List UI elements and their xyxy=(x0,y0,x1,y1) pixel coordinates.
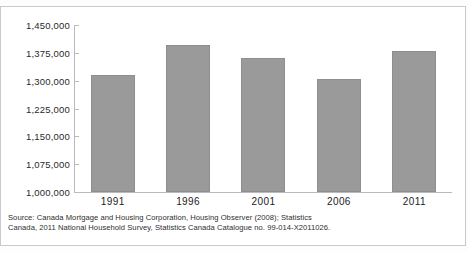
bar-series xyxy=(75,25,452,192)
y-axis-tick-label: 1,000,000 xyxy=(0,187,70,198)
x-axis-tick-label: 2001 xyxy=(226,196,301,207)
bar-slot xyxy=(377,25,452,192)
bar xyxy=(317,79,361,192)
clipped-header-text xyxy=(250,0,450,3)
y-axis-tick-label: 1,075,000 xyxy=(0,159,70,170)
y-axis-tick-mark xyxy=(74,53,79,54)
y-axis-tick-label: 1,225,000 xyxy=(0,103,70,114)
y-axis-tick-label: 1,150,000 xyxy=(0,131,70,142)
x-axis-tick-label: 2006 xyxy=(301,196,376,207)
source-line-2: Canada, 2011 National Household Survey, … xyxy=(8,223,408,233)
x-axis-tick-label: 1996 xyxy=(150,196,225,207)
x-axis-tick-label: 1991 xyxy=(75,196,150,207)
bar-slot xyxy=(150,25,225,192)
bar-slot xyxy=(301,25,376,192)
y-axis-tick-mark xyxy=(74,136,79,137)
bar xyxy=(241,58,285,192)
bar xyxy=(166,45,210,192)
x-axis-tick-label: 2011 xyxy=(377,196,452,207)
y-axis-tick-mark xyxy=(74,164,79,165)
bar-slot xyxy=(75,25,150,192)
source-line-1: Source: Canada Mortgage and Housing Corp… xyxy=(8,213,408,223)
x-axis-line xyxy=(74,192,452,193)
bar-slot xyxy=(226,25,301,192)
y-axis-tick-label: 1,300,000 xyxy=(0,75,70,86)
y-axis-tick-label: 1,450,000 xyxy=(0,20,70,31)
y-axis-tick-mark xyxy=(74,25,79,26)
y-axis-tick-mark xyxy=(74,81,79,82)
x-axis-labels: 19911996200120062011 xyxy=(75,196,452,214)
bar xyxy=(392,51,436,192)
plot-area: 1,450,0001,375,0001,300,0001,225,0001,15… xyxy=(0,6,467,211)
source-note: Source: Canada Mortgage and Housing Corp… xyxy=(8,213,408,232)
y-axis-tick-label: 1,375,000 xyxy=(0,47,70,58)
chart-figure: 1,450,0001,375,0001,300,0001,225,0001,15… xyxy=(0,0,467,253)
y-axis-labels: 1,450,0001,375,0001,300,0001,225,0001,15… xyxy=(0,6,70,211)
y-axis-tick-mark xyxy=(74,192,79,193)
bar xyxy=(91,75,135,192)
y-axis-tick-mark xyxy=(74,109,79,110)
